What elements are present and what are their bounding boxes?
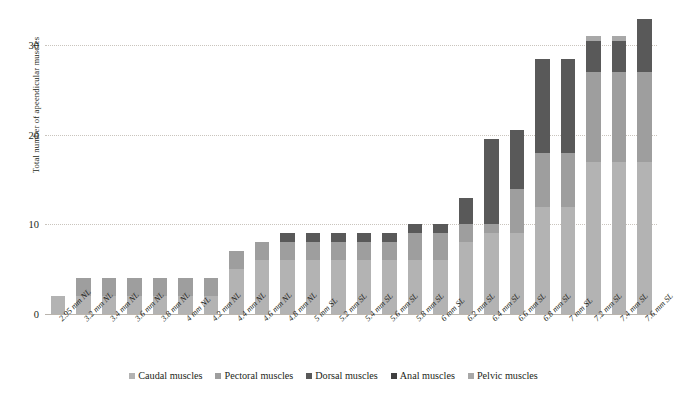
x-axis-label-slot: 4.6 mm NL [249,314,275,370]
legend-swatch-icon [306,373,312,379]
x-axis-label-slot: 2.95 mm NL [45,314,71,370]
bar-segment [586,72,601,162]
x-axis-label-slot: 7.6 mm SL [632,314,658,370]
bar-segment [408,233,423,260]
y-axis-tick-label: 10 [29,219,40,230]
bar-segment [357,242,372,260]
bar-segment [331,242,346,260]
x-axis-label-slot: 3.6 mm NL [122,314,148,370]
bar-column[interactable] [198,14,224,314]
legend-item[interactable]: Anal muscles [391,370,455,381]
bar-stack [561,59,576,314]
bar-segment [612,72,627,162]
bar-segment [382,242,397,260]
bar-column[interactable] [96,14,122,314]
x-axis-label-slot: 6.4 mm SL [479,314,505,370]
bar-column[interactable] [632,14,658,314]
bar-segment [382,233,397,242]
legend-item[interactable]: Pelvic muscles [468,370,538,381]
bar-column[interactable] [453,14,479,314]
x-axis-label-slot: 7.4 mm SL [606,314,632,370]
bar-segment [459,198,474,225]
legend-swatch-icon [129,373,135,379]
x-axis-label-slot: 7.2 mm SL [581,314,607,370]
bar-column[interactable] [275,14,301,314]
x-axis-label-slot: 5.4 mm SL [351,314,377,370]
x-axis-label-slot: 3.2 mm NL [71,314,97,370]
x-axis-label-slot: 6.2 mm SL [453,314,479,370]
legend-swatch-icon [215,373,221,379]
bar-segment [561,59,576,153]
bar-segment [637,19,652,73]
legend-item-label: Anal muscles [400,370,455,381]
x-axis-label-slot: 5 mm SL [300,314,326,370]
x-axis-label-slot: 5.6 mm SL [377,314,403,370]
bar-segment [280,242,295,260]
bar-stack [484,139,499,314]
y-axis-tick-label: 20 [29,129,40,140]
legend-item[interactable]: Caudal muscles [129,370,202,381]
x-axis-label-slot: 6.8 mm SL [530,314,556,370]
bar-column[interactable] [479,14,505,314]
bar-segment [459,224,474,242]
y-axis-tick-label: 0 [34,309,39,320]
bar-segment [612,162,627,314]
bars-layer [45,14,657,314]
bar-column[interactable] [300,14,326,314]
x-axis-label-slot: 5.2 mm SL [326,314,352,370]
bar-column[interactable] [581,14,607,314]
bar-segment [229,251,244,269]
bar-segment [510,189,525,234]
plot-area: 0102030 [45,14,657,314]
bar-segment [510,130,525,188]
bar-segment [535,153,550,207]
bar-segment [484,139,499,224]
legend-swatch-icon [391,373,397,379]
x-axis-label-slot: 3.4 mm NL [96,314,122,370]
bar-column[interactable] [504,14,530,314]
bar-stack [612,36,627,314]
y-axis-title: Total number of apeendicular muscles [31,0,41,235]
bar-segment [280,233,295,242]
bar-column[interactable] [122,14,148,314]
bar-segment [408,224,423,233]
bar-column[interactable] [249,14,275,314]
bar-column[interactable] [606,14,632,314]
bar-column[interactable] [147,14,173,314]
legend-item[interactable]: Dorsal muscles [306,370,378,381]
bar-segment [561,153,576,207]
bar-column[interactable] [326,14,352,314]
x-axis-label-slot: 5.8 mm SL [402,314,428,370]
bar-column[interactable] [71,14,97,314]
legend-item-label: Dorsal muscles [315,370,378,381]
bar-segment [612,41,627,72]
bar-column[interactable] [224,14,250,314]
legend-swatch-icon [468,373,474,379]
bar-segment [255,242,270,260]
bar-column[interactable] [377,14,403,314]
x-axis-label-slot: 7 mm SL [555,314,581,370]
legend-item-label: Pectoral muscles [224,370,293,381]
bar-column[interactable] [351,14,377,314]
bar-segment [306,233,321,242]
bar-stack [586,36,601,314]
legend-item-label: Caudal muscles [138,370,202,381]
x-axis-label-slot: 4.8 mm NL [275,314,301,370]
x-axis-label-slot: 4 mm NL [173,314,199,370]
bar-stack [535,59,550,314]
bar-column[interactable] [530,14,556,314]
bar-segment [484,224,499,233]
bar-column[interactable] [555,14,581,314]
bar-column[interactable] [402,14,428,314]
x-axis-label-slot: 4.2 mm NL [198,314,224,370]
bar-segment [433,233,448,260]
bar-segment [637,72,652,162]
bar-column[interactable] [428,14,454,314]
bar-stack [510,130,525,314]
legend-item-label: Pelvic muscles [477,370,538,381]
bar-column[interactable] [173,14,199,314]
x-axis-label-slot: 6 mm SL [428,314,454,370]
bar-column[interactable] [45,14,71,314]
legend-item[interactable]: Pectoral muscles [215,370,293,381]
